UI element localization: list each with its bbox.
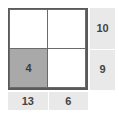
col-sum-2: 6	[49, 92, 89, 110]
grid-cell-r2c2[interactable]	[47, 48, 86, 88]
row-sum-strip: 10 9	[90, 8, 115, 90]
column-sum-strip: 13 6	[8, 92, 88, 110]
grid-cell-r1c2[interactable]	[47, 9, 86, 49]
row-sum-2: 9	[90, 50, 115, 91]
cell-value: 4	[25, 63, 31, 74]
puzzle-grid: 4	[8, 8, 88, 90]
grid-cell-r2c1[interactable]: 4	[9, 48, 48, 88]
grid-cell-r1c1[interactable]	[9, 9, 48, 49]
col-sum-1: 13	[8, 92, 48, 110]
row-sum-1: 10	[90, 8, 115, 49]
sum-grid-puzzle: 4 10 9 13 6	[0, 0, 119, 116]
